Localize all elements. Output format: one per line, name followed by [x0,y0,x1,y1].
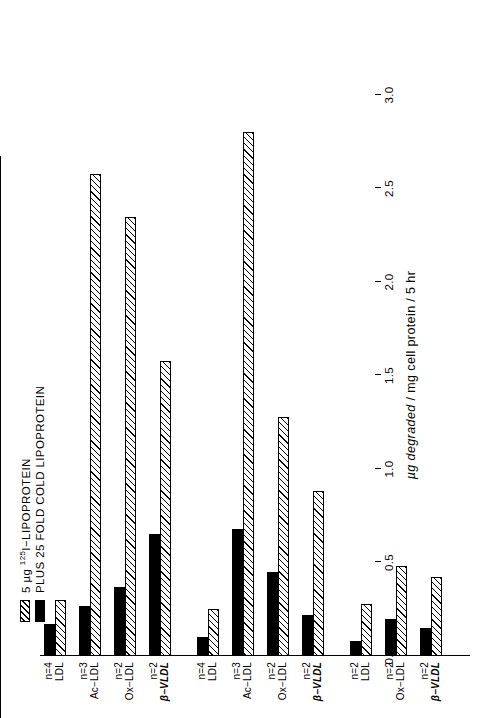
bar-solid [302,615,313,656]
bar-n-label: n=2 [266,662,277,700]
axis-tick [375,281,381,282]
legend-label-hot: 5 µg 125I−LIPOPROTEIN [18,458,32,593]
bar-hatched [125,217,136,656]
bar-annotation: n=3Ac−LDL [231,662,253,699]
bar-annotation: n=2β−VLDL [148,662,170,701]
bar-solid [232,529,243,656]
bar-hatched [160,361,171,656]
bar-n-label: n=2 [148,662,159,701]
bar-hatched [243,132,254,656]
axis-tick-label: 1.5 [383,367,395,384]
bar-category-label: β−VLDL [312,662,323,701]
bar-category-label: LDL [54,662,65,681]
axis-tick [375,561,381,562]
bar-solid [197,637,208,656]
legend-item-hot: 5 µg 125I−LIPOPROTEIN [18,386,31,622]
bar-n-label: n=4 [196,662,207,681]
bar-hatched [396,566,407,656]
bar-solid [149,534,160,656]
bar-hatched [313,491,324,656]
axis-tick-label: 3.0 [383,87,395,104]
bar-hatched [208,609,219,656]
axis-tick-label: 0.5 [383,554,395,571]
bar-category-label: Ox−LDL [277,662,288,700]
bar-annotation: n=2Ox−LDL [113,662,135,700]
bar-category-label: LDL [207,662,218,681]
axis-tick [375,187,381,188]
bar-annotation: n=3Ac−LDL [78,662,100,699]
legend-swatch-hatched [20,600,30,622]
bar-solid [114,587,125,656]
bar-n-label: n=2 [384,662,395,700]
bar-solid [79,606,90,656]
axis-title-rest: / mg cell protein / 5 hr [404,271,418,405]
axis-title-italic: µg degraded [404,404,418,479]
bar-annotation: n=2β−VLDL [419,662,441,701]
bar-solid [420,628,431,656]
bar-category-label: β−VLDL [159,662,170,701]
plot-area [40,96,370,656]
bar-n-label: n=3 [231,662,242,699]
legend-label-hot-prefix: 5 µg [19,565,31,593]
bar-annotation: n=4LDL [196,662,218,681]
bar-solid [350,641,361,656]
bar-n-label: n=3 [78,662,89,699]
bar-hatched [361,604,372,656]
axis-tick [375,374,381,375]
bar-n-label: n=2 [301,662,312,701]
bar-category-label: LDL [360,662,371,681]
bar-annotation: n=4LDL [43,662,65,681]
bar-hatched [90,174,101,656]
bar-n-label: n=2 [419,662,430,701]
bar-solid [267,572,278,656]
bar-n-label: n=2 [113,662,124,700]
bar-n-label: n=4 [43,662,54,681]
bar-annotation: n=2LDL [349,662,371,681]
value-axis-line [0,156,1,718]
bar-chart-figure: 5 µg 125I−LIPOPROTEIN PLUS 25 FOLD COLD … [0,0,502,718]
axis-tick-label: 2.5 [383,180,395,197]
bar-hatched [278,417,289,656]
bar-category-label: Ac−LDL [89,662,100,699]
bar-category-label: Ox−LDL [124,662,135,700]
axis-tick [375,468,381,469]
bar-solid [44,624,55,656]
bar-n-label: n=2 [349,662,360,681]
bar-hatched [55,600,66,656]
axis-tick-label: 1.0 [383,461,395,478]
bar-annotation: n=2Ox−LDL [384,662,406,700]
axis-tick-label: 2.0 [383,274,395,291]
bar-category-label: Ac−LDL [242,662,253,699]
bar-annotation: n=2Ox−LDL [266,662,288,700]
bar-annotation: n=2β−VLDL [301,662,323,701]
legend-label-hot-sup: 125 [18,551,27,566]
axis-tick [375,94,381,95]
figure-page: 5 µg 125I−LIPOPROTEIN PLUS 25 FOLD COLD … [0,0,502,718]
bar-category-label: Ox−LDL [395,662,406,700]
bar-category-label: β−VLDL [430,662,441,701]
bar-hatched [431,577,442,656]
legend-label-hot-suffix: I−LIPOPROTEIN [19,458,31,550]
bar-solid [385,619,396,656]
